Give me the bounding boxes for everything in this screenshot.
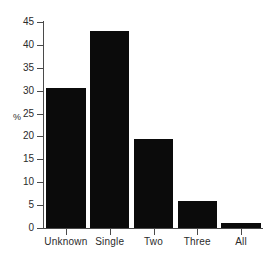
x-tick-mark <box>110 229 111 235</box>
y-tick-label: 45 <box>8 17 34 27</box>
y-tick-label: 30 <box>8 86 34 96</box>
x-tick-mark <box>154 229 155 235</box>
y-tick-mark <box>37 182 43 183</box>
y-tick-mark <box>37 68 43 69</box>
y-tick-mark <box>37 228 43 229</box>
y-tick-label: 0 <box>8 223 34 233</box>
x-tick-label: Single <box>88 236 132 248</box>
bar <box>46 88 85 228</box>
y-tick-mark <box>37 91 43 92</box>
y-tick-label: 15 <box>8 154 34 164</box>
x-tick-label: Unknown <box>44 236 88 248</box>
x-tick-label: Two <box>132 236 176 248</box>
y-tick-mark <box>37 22 43 23</box>
bar <box>178 201 217 228</box>
bar-chart: % 051015202530354045 UnknownSingleTwoThr… <box>0 0 269 254</box>
y-tick-label: 10 <box>8 177 34 187</box>
y-tick-mark <box>37 159 43 160</box>
x-tick-mark <box>197 229 198 235</box>
bar <box>221 223 260 228</box>
x-tick-mark <box>66 229 67 235</box>
x-tick-mark <box>241 229 242 235</box>
x-axis-line <box>43 228 263 229</box>
x-tick-label: All <box>219 236 263 248</box>
y-tick-label: 40 <box>8 40 34 50</box>
y-tick-label: 35 <box>8 63 34 73</box>
y-tick-label: 20 <box>8 131 34 141</box>
x-tick-label: Three <box>175 236 219 248</box>
bar <box>134 139 173 228</box>
y-tick-label: 5 <box>8 200 34 210</box>
y-tick-mark <box>37 136 43 137</box>
y-tick-label: 25 <box>8 109 34 119</box>
y-tick-mark <box>37 205 43 206</box>
y-tick-mark <box>37 114 43 115</box>
y-tick-mark <box>37 45 43 46</box>
bar <box>90 31 129 228</box>
y-axis-line <box>43 21 44 229</box>
